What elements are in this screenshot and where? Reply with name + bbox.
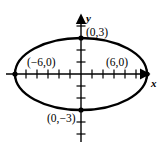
y-axis-label: y: [86, 13, 91, 24]
y-axis: [76, 14, 86, 143]
x-axis: [6, 69, 151, 80]
y-axis-arrowhead-icon: [76, 14, 86, 25]
point-right-vertex: [144, 71, 149, 76]
point-label-right: (6,0): [106, 57, 128, 69]
point-top-co-vertex: [78, 35, 83, 40]
point-bottom-co-vertex: [78, 107, 83, 112]
ellipse-graph-figure: y x (0,3) (−6,0) (6,0) (0,−3): [0, 0, 162, 147]
point-label-left: (−6,0): [27, 57, 56, 69]
point-label-top: (0,3): [86, 27, 108, 39]
coordinate-plane-svg: [0, 0, 162, 147]
x-axis-label: x: [151, 78, 157, 89]
point-label-bottom: (0,−3): [47, 113, 76, 125]
point-left-vertex: [12, 71, 17, 76]
